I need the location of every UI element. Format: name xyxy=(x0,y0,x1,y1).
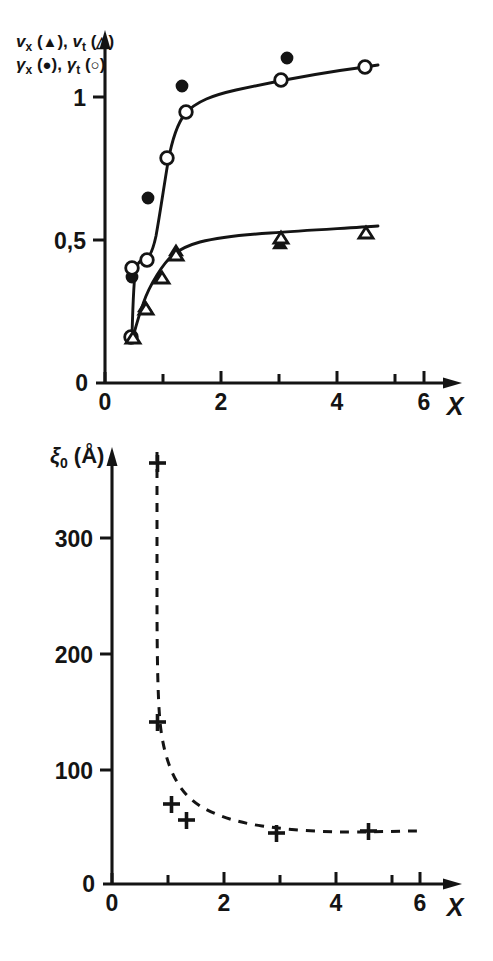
upper-xtick-label-1: 2 xyxy=(215,389,228,415)
upper-xtick-label-0: 0 xyxy=(99,389,112,415)
figure-canvas: vx (▲), vt (△) γx (●), γt (○) 0 0,5 1 0 xyxy=(0,0,493,961)
lower-xaxis-name: X xyxy=(445,893,465,921)
marker-plus xyxy=(360,823,377,840)
marker-open-circle xyxy=(161,152,174,165)
ylabel-line-2: γx (●), γt (○) xyxy=(16,55,105,77)
lower-xi-curve xyxy=(157,452,418,832)
marker-plus xyxy=(149,455,166,472)
marker-plus xyxy=(163,796,180,813)
lower-xtick-label-1: 2 xyxy=(218,890,231,916)
marker-open-circle xyxy=(126,262,139,275)
upper-x-axis-arrow xyxy=(443,378,462,389)
marker-filled-circle xyxy=(176,80,187,91)
upper-xtick-label-2: 4 xyxy=(331,389,344,415)
marker-open-circle xyxy=(359,61,372,74)
lower-panel-ylabel: ξ0 (Å) xyxy=(50,442,104,471)
upper-ytick-label-2: 1 xyxy=(73,85,86,111)
marker-open-triangle xyxy=(139,303,153,314)
upper-panel-ylabel: vx (▲), vt (△) γx (●), γt (○) xyxy=(16,32,114,77)
marker-filled-circle xyxy=(142,192,153,203)
marker-open-circle xyxy=(141,254,154,267)
marker-open-circle xyxy=(180,106,193,119)
upper-xaxis-name: X xyxy=(445,392,465,420)
marker-open-circle xyxy=(275,74,288,87)
lower-xtick-label-3: 6 xyxy=(414,890,427,916)
upper-gamma-curve xyxy=(132,65,378,336)
upper-ytick-label-0: 0 xyxy=(75,370,88,396)
upper-xtick-label-3: 6 xyxy=(418,389,431,415)
lower-y-axis-arrow xyxy=(107,447,118,466)
marker-plus-group xyxy=(149,455,377,842)
marker-open-triangle xyxy=(359,227,373,238)
upper-ytick-label-1: 0,5 xyxy=(54,228,86,254)
upper-v-curve xyxy=(133,226,378,337)
lower-ytick-label-0: 0 xyxy=(82,871,95,897)
marker-plus xyxy=(178,812,195,829)
ylabel-line-1: vx (▲), vt (△) xyxy=(16,32,114,54)
lower-ytick-label-2: 200 xyxy=(55,642,93,668)
lower-panel: ξ0 (Å) 0 100 200 300 0 2 4 6 X xyxy=(50,442,465,921)
upper-panel: vx (▲), vt (△) γx (●), γt (○) 0 0,5 1 0 xyxy=(16,30,465,420)
figure-root: vx (▲), vt (△) γx (●), γt (○) 0 0,5 1 0 xyxy=(0,0,493,961)
lower-ytick-label-1: 100 xyxy=(55,758,93,784)
lower-xtick-label-0: 0 xyxy=(106,890,119,916)
marker-filled-circle xyxy=(281,52,292,63)
lower-x-axis-arrow xyxy=(443,879,462,890)
marker-plus xyxy=(268,825,285,842)
lower-ytick-label-3: 300 xyxy=(55,526,93,552)
marker-plus xyxy=(149,714,166,731)
lower-xtick-label-2: 4 xyxy=(330,890,343,916)
